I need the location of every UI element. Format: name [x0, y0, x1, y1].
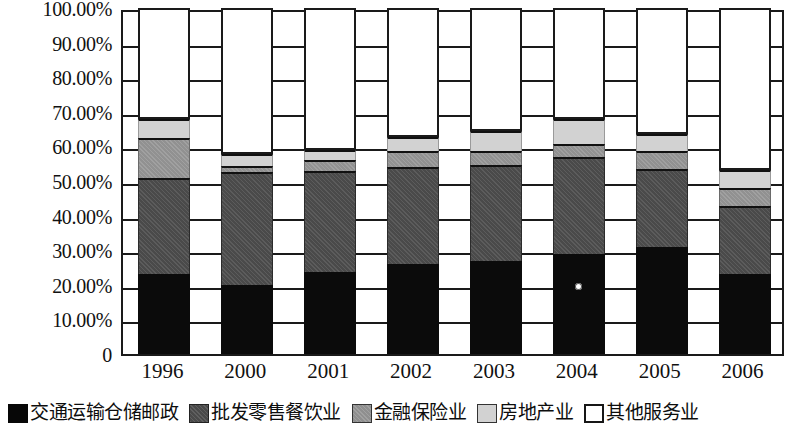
bar-segment [719, 170, 771, 188]
bar-segment [221, 154, 273, 166]
x-tick-label-2003: 2003 [453, 358, 536, 384]
bar-segment [636, 151, 688, 169]
x-tick-label-2001: 2001 [287, 358, 370, 384]
y-tick-label: 20.00% [52, 276, 112, 296]
bar-2006 [719, 8, 771, 354]
legend-item: 其他服务业 [584, 402, 699, 424]
legend-item: 批发零售餐饮业 [189, 402, 341, 424]
bar-segment [138, 138, 190, 178]
bar-segment [304, 150, 356, 160]
bar-segment [387, 8, 439, 137]
x-tick-label-2002: 2002 [370, 358, 453, 384]
x-tick-label-1996: 1996 [121, 358, 204, 384]
bar-segment [138, 274, 190, 354]
bar-segment [221, 8, 273, 154]
y-tick-label: 80.00% [52, 68, 112, 88]
bar-segment [636, 169, 688, 247]
legend-swatch-icon [352, 404, 372, 423]
bar-segment [636, 8, 688, 134]
bar-2004 [553, 8, 605, 354]
legend-swatch-icon [477, 404, 497, 423]
legend-swatch-icon [189, 404, 209, 423]
bar-segment [304, 171, 356, 271]
bar-segment [636, 247, 688, 354]
bar-segment [138, 178, 190, 275]
bar-segment [470, 261, 522, 354]
bar-segment [138, 119, 190, 137]
bar-segment [221, 172, 273, 284]
y-tick-label: 10.00% [52, 310, 112, 330]
x-tick-label-2005: 2005 [618, 358, 701, 384]
bar-segment [470, 131, 522, 151]
bar-segment [470, 151, 522, 166]
scan-artifact-speck [575, 283, 582, 290]
x-axis: 19962000200120022003200420052006 [121, 358, 784, 388]
bar-segment [719, 188, 771, 206]
bar-segment [719, 8, 771, 170]
bar-segment [221, 285, 273, 354]
x-tick-label-2006: 2006 [701, 358, 784, 384]
bar-segment [138, 8, 190, 119]
legend-swatch-icon [584, 404, 604, 423]
bar-segment [387, 264, 439, 354]
legend-label: 金融保险业 [374, 402, 467, 424]
bar-segment [387, 167, 439, 264]
legend-item: 交通运输仓储邮政 [8, 402, 178, 424]
bars-layer [123, 12, 782, 354]
y-tick-label: 0 [102, 345, 112, 365]
y-tick-label: 90.00% [52, 34, 112, 54]
y-tick-label: 40.00% [52, 207, 112, 227]
bar-2000 [221, 8, 273, 354]
y-tick-label: 100.00% [42, 0, 112, 19]
bar-segment [304, 272, 356, 354]
bar-2005 [636, 8, 688, 354]
y-tick-label: 70.00% [52, 103, 112, 123]
x-tick-label-2000: 2000 [204, 358, 287, 384]
stacked-bar-chart: 100.00%90.00%80.00%70.00%60.00%50.00%40.… [0, 0, 787, 428]
chart-legend: 交通运输仓储邮政批发零售餐饮业金融保险业房地产业其他服务业 [8, 399, 787, 427]
bar-segment [387, 151, 439, 167]
bar-segment [304, 8, 356, 150]
bar-segment [553, 157, 605, 254]
legend-label: 房地产业 [499, 402, 573, 424]
bar-segment [221, 166, 273, 172]
legend-label: 其他服务业 [606, 402, 699, 424]
y-axis: 100.00%90.00%80.00%70.00%60.00%50.00%40.… [0, 0, 116, 365]
bar-segment [553, 144, 605, 157]
bar-segment [304, 160, 356, 171]
plot-area [121, 10, 784, 356]
y-tick-label: 60.00% [52, 137, 112, 157]
bar-segment [553, 8, 605, 119]
bar-segment [387, 137, 439, 151]
legend-swatch-icon [8, 404, 28, 423]
bar-segment [470, 165, 522, 260]
legend-label: 批发零售餐饮业 [211, 402, 341, 424]
x-tick-label-2004: 2004 [535, 358, 618, 384]
legend-label: 交通运输仓储邮政 [30, 402, 178, 424]
legend-item: 房地产业 [477, 402, 573, 424]
bar-segment [470, 8, 522, 131]
legend-item: 金融保险业 [352, 402, 467, 424]
bar-segment [636, 134, 688, 151]
bar-segment [719, 274, 771, 354]
y-tick-label: 30.00% [52, 241, 112, 261]
bar-2003 [470, 8, 522, 354]
bar-segment [553, 119, 605, 144]
y-tick-label: 50.00% [52, 172, 112, 192]
bar-segment [719, 206, 771, 273]
bar-1996 [138, 8, 190, 354]
bar-segment [553, 254, 605, 354]
bar-2002 [387, 8, 439, 354]
bar-2001 [304, 8, 356, 354]
